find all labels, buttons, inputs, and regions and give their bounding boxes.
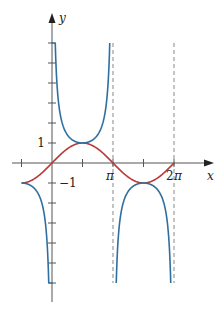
x-tick-label-pi: π (105, 169, 115, 183)
csc-curve-branch (55, 43, 110, 143)
y-axis-arrow-icon (49, 13, 56, 23)
y-tick-label-neg1: −1 (59, 176, 77, 190)
sin-csc-chart: y x 1 −1 π 2 π (0, 0, 221, 312)
x-axis-label: x (207, 169, 214, 183)
x-tick-label-2pi-coef: 2 (166, 169, 174, 183)
x-tick-label-2pi-pi: π (173, 169, 183, 183)
csc-curve-branch (116, 183, 171, 283)
y-tick-label-1: 1 (37, 136, 45, 150)
csc-curve-branch (22, 183, 49, 283)
y-axis-label: y (58, 11, 66, 25)
x-axis-arrow-icon (204, 160, 214, 167)
